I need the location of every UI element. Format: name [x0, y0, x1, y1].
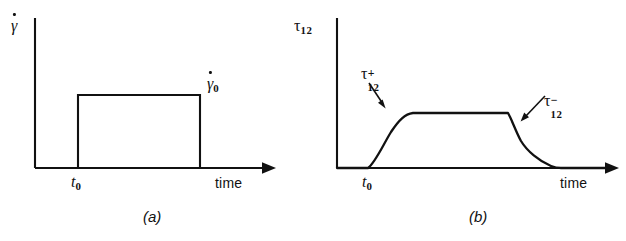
panel-b: τ12 τ + 12 τ − 12 t0 time (b) [313, 0, 626, 241]
y-axis-subscript-b: 12 [300, 24, 312, 36]
shear-stress-response-curve [337, 113, 605, 168]
growth-subscript: 12 [367, 82, 379, 93]
y-axis-label-b: τ12 [294, 18, 312, 36]
plateau-value-label-a: γ0 [207, 76, 219, 94]
relaxation-annotation-arrow [521, 96, 545, 122]
shear-rate-pulse-curve [35, 95, 262, 168]
x-axis-arrowhead-b [605, 162, 619, 174]
panel-a: γ γ0 t0 time (a) [0, 0, 313, 241]
relaxation-sign: − [551, 95, 558, 107]
gamma-dot-symbol: γ [11, 17, 17, 34]
onset-subscript-a: 0 [75, 180, 81, 192]
growth-sign: + [368, 68, 375, 80]
figure-root: γ γ0 t0 time (a) [0, 0, 626, 241]
stress-relaxation-label: τ − 12 [544, 93, 567, 109]
panel-a-plot [0, 0, 313, 241]
onset-label-b: t0 [362, 174, 372, 192]
x-axis-arrowhead-a [262, 162, 276, 174]
panel-b-plot [313, 0, 626, 241]
x-axis-label-a: time [215, 176, 242, 190]
x-axis-label-b: time [560, 176, 587, 190]
relaxation-subscript: 12 [550, 109, 562, 120]
plateau-subscript-a: 0 [213, 82, 219, 94]
onset-subscript-b: 0 [366, 180, 372, 192]
y-axis-label-a: γ [11, 18, 17, 34]
panel-caption-a: (a) [143, 209, 161, 224]
panel-caption-b: (b) [469, 209, 487, 224]
stress-growth-label: τ + 12 [361, 66, 384, 82]
onset-label-a: t0 [71, 174, 81, 192]
